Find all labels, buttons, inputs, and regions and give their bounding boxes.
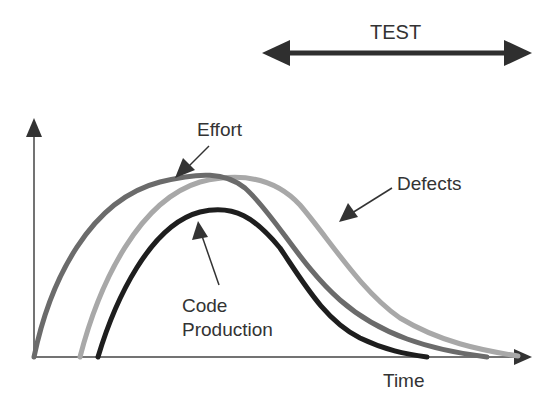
effort-label: Effort <box>197 120 242 139</box>
code-production-pointer-arrow <box>192 221 219 285</box>
diagram-canvas <box>0 0 557 407</box>
defects-pointer-arrow <box>339 188 392 222</box>
x-axis-label: Time <box>383 371 425 390</box>
code-production-label-line2: Production <box>182 320 273 339</box>
test-double-arrow <box>262 40 532 66</box>
test-label: TEST <box>370 22 421 42</box>
code-production-label-line1: Code <box>182 296 227 315</box>
y-axis <box>26 118 42 358</box>
defects-label: Defects <box>397 174 461 193</box>
defects-curve <box>80 177 518 357</box>
